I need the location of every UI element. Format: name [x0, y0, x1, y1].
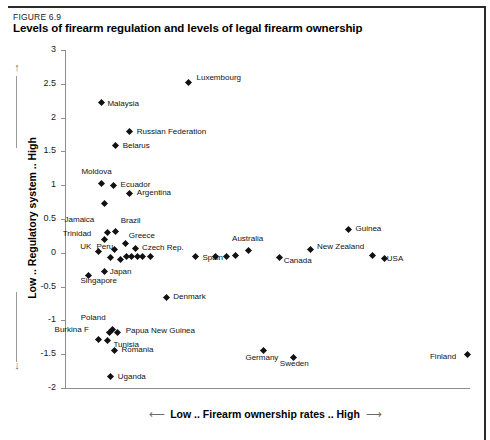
y-axis-tick-label: 0 [30, 248, 56, 257]
x-axis-arrow-right: ⟶ [366, 409, 381, 420]
y-axis-tick [61, 253, 66, 254]
data-point-label: Argentina [137, 189, 171, 197]
data-point[interactable] [104, 337, 111, 344]
data-point[interactable] [112, 142, 119, 149]
data-point[interactable] [223, 253, 230, 260]
data-point-label: Romania [121, 346, 153, 354]
x-axis-line [65, 388, 470, 389]
figure-title: Levels of firearm regulation and levels … [13, 22, 362, 34]
data-point[interactable] [101, 268, 108, 275]
data-point-label: Uganda [118, 373, 146, 381]
data-point-label: Brazil [121, 217, 141, 225]
data-point-label: New Zealand [317, 243, 364, 251]
y-axis-tick [61, 388, 66, 389]
y-axis-tick [61, 151, 66, 152]
y-axis-tick-label: 1 [30, 180, 56, 189]
data-point-label: Trinidad [63, 230, 92, 238]
data-point-label: Australia [232, 235, 263, 243]
data-point[interactable] [114, 329, 121, 336]
data-point-label: Greece [129, 232, 155, 240]
y-axis-tick [61, 287, 66, 288]
y-axis-tick-label: 2 [30, 113, 56, 122]
y-axis-tick [61, 354, 66, 355]
data-point[interactable] [122, 240, 129, 247]
data-point[interactable] [98, 180, 105, 187]
data-point-label: Czech Rep. [142, 244, 184, 252]
data-point[interactable] [107, 254, 114, 261]
y-axis-tick [61, 185, 66, 186]
data-point[interactable] [147, 253, 154, 260]
y-axis-tick-label: 1.5 [30, 146, 56, 155]
data-point[interactable] [345, 226, 352, 233]
y-axis-arrow-down: ↓ [11, 360, 23, 371]
data-point-label: Sweden [280, 360, 309, 368]
data-point-label: Finland [430, 353, 456, 361]
data-point-label: Belarus [123, 142, 150, 150]
y-axis-rule-top [16, 76, 17, 148]
data-point-label: Luxembourg [197, 74, 241, 82]
y-axis-tick-label: -1.5 [30, 349, 56, 358]
y-axis-tick-label: -0.5 [30, 282, 56, 291]
data-point-label: Papua New Guinea [126, 327, 195, 335]
data-point[interactable] [185, 79, 192, 86]
data-point[interactable] [232, 252, 239, 259]
y-axis-arrow-up: ↑ [11, 62, 23, 73]
data-point-label: Germany [245, 354, 278, 362]
y-axis-tick-label: -2 [30, 383, 56, 392]
data-point[interactable] [95, 336, 102, 343]
data-point[interactable] [192, 253, 199, 260]
data-point[interactable] [126, 128, 133, 135]
scatter-plot: ↑ Low .. Regulatory system .. High ↓ 32.… [0, 44, 486, 440]
data-point[interactable] [110, 182, 117, 189]
data-point[interactable] [98, 99, 105, 106]
y-axis-tick-label: 0.5 [30, 214, 56, 223]
data-point[interactable] [107, 373, 114, 380]
y-axis-tick-label: -1 [30, 315, 56, 324]
data-point[interactable] [464, 351, 471, 358]
data-point-label: Burkina F [55, 326, 89, 334]
data-point[interactable] [112, 228, 119, 235]
data-point[interactable] [276, 254, 283, 261]
data-point-label: Russian Federation [137, 128, 206, 136]
data-point[interactable] [126, 190, 133, 197]
data-point-label: USA [387, 255, 403, 263]
data-point-label: Jamaica [65, 216, 95, 224]
data-point-label: Denmark [173, 293, 205, 301]
x-axis-title: Low .. Firearm ownership rates .. High [170, 408, 360, 420]
data-point[interactable] [104, 229, 111, 236]
data-point-label: Malaysia [107, 100, 139, 108]
x-axis-title-row: ⟵ Low .. Firearm ownership rates .. High… [65, 406, 465, 422]
y-axis-tick [61, 50, 66, 51]
data-point[interactable] [369, 252, 376, 259]
y-axis-tick-label: 3 [30, 45, 56, 54]
y-axis-tick [61, 320, 66, 321]
data-point-label: Guinea [356, 225, 382, 233]
y-axis-tick [61, 118, 66, 119]
data-point-label: UK [80, 243, 91, 251]
figure-page: FIGURE 6.9 Levels of firearm regulation … [0, 0, 490, 440]
frame-top-rule [8, 6, 486, 8]
y-axis-tick-label: 2.5 [30, 79, 56, 88]
data-point-label: Peru [96, 243, 113, 251]
data-point-label: Moldova [81, 168, 111, 176]
data-point-label: Singapore [80, 277, 116, 285]
data-point[interactable] [163, 294, 170, 301]
x-axis-arrow-left: ⟵ [149, 409, 164, 420]
figure-number: FIGURE 6.9 [13, 12, 61, 22]
data-point-label: Canada [284, 257, 312, 265]
y-axis-rule-bottom [16, 292, 17, 362]
data-point[interactable] [101, 200, 108, 207]
data-point[interactable] [139, 253, 146, 260]
data-point[interactable] [132, 245, 139, 252]
y-axis-tick [61, 84, 66, 85]
data-point-label: Japan [110, 268, 132, 276]
data-point[interactable] [245, 247, 252, 254]
data-point-label: Poland [81, 314, 106, 322]
data-point[interactable] [306, 246, 313, 253]
